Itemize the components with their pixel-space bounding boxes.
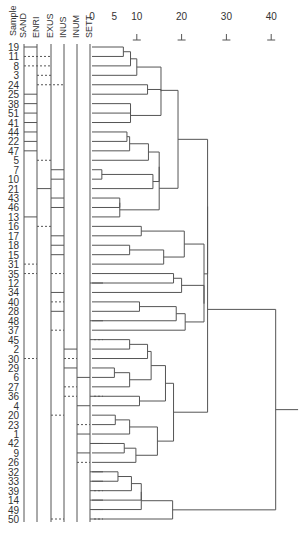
- column-header-sand: SAND: [18, 12, 28, 38]
- column-header-inus: INUS: [58, 16, 68, 38]
- tick-label: 10: [131, 11, 143, 22]
- column-header-inum: INUM: [71, 15, 81, 38]
- column-header-exus: EXUS: [45, 13, 55, 38]
- sample-header: Sample: [8, 5, 18, 36]
- column-headers: SampleSANDENRIEXUSINUSINUMSETT: [8, 5, 94, 38]
- tick-label: 30: [221, 11, 233, 22]
- distance-axis: 0510203040: [89, 11, 277, 40]
- tick-label: 40: [266, 11, 278, 22]
- tick-label: 20: [176, 11, 188, 22]
- attribute-columns: [24, 44, 103, 522]
- tick-label: 0: [89, 11, 95, 22]
- tick-label: 5: [112, 11, 118, 22]
- dendrogram-chart: SampleSANDENRIEXUSINUSINUMSETT 051020304…: [0, 0, 307, 536]
- sample-label: 50: [8, 514, 20, 525]
- dendrogram-tree: [92, 47, 298, 519]
- column-header-enri: ENRI: [31, 16, 41, 38]
- sample-labels: 1911832425385141442247571021434613161718…: [8, 42, 20, 525]
